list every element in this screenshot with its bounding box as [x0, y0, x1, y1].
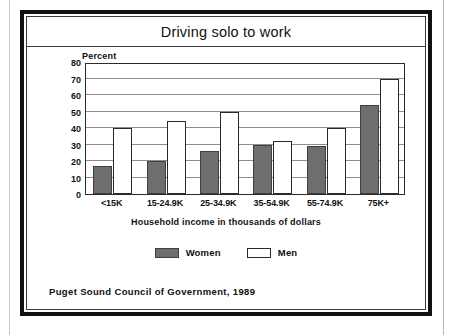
x-axis-tick-label: <15K	[101, 198, 122, 208]
x-axis-tick-label: 25-34.9K	[200, 198, 236, 208]
bar-men-4	[327, 128, 346, 194]
filled-gray-swatch	[155, 248, 179, 258]
legend-item-men: Men	[247, 247, 298, 258]
y-axis-tick-label: 70	[71, 75, 81, 84]
y-axis-tick-label: 30	[71, 141, 81, 150]
legend-label: Men	[278, 247, 298, 258]
bar-men-5	[380, 79, 399, 195]
x-axis-tick-labels: <15K15-24.9K25-34.9K35-54.9K55-74.9K75K+	[85, 198, 405, 214]
bar-men-3	[273, 141, 292, 194]
y-axis-tick-label: 50	[71, 108, 81, 117]
source-note: Puget Sound Council of Government, 1989	[49, 286, 255, 297]
plot-region: Percent 01020304050607080 <15K15-24.9K25…	[27, 47, 425, 293]
x-axis-tick-label: 75K+	[368, 198, 389, 208]
scanned-page: Driving solo to work Percent 01020304050…	[0, 0, 459, 335]
y-axis-tick-labels: 01020304050607080	[55, 63, 81, 195]
outlined-white-swatch	[247, 248, 271, 258]
chart-legend: WomenMen	[27, 247, 425, 258]
bar-men-0	[113, 128, 132, 194]
page-edge-left-rule	[9, 0, 10, 335]
x-axis-tick-label: 55-74.9K	[307, 198, 343, 208]
x-axis-tick-label: 15-24.9K	[147, 198, 183, 208]
bar-women-1	[147, 161, 166, 194]
y-axis-tick-label: 60	[71, 92, 81, 101]
y-axis-tick-label: 40	[71, 125, 81, 134]
x-axis-tick-label: 35-54.9K	[254, 198, 290, 208]
bar-men-1	[167, 121, 186, 194]
gridline	[86, 144, 404, 145]
y-axis-tick-label: 10	[71, 174, 81, 183]
figure-frame: Driving solo to work Percent 01020304050…	[20, 10, 432, 316]
y-axis-tick-label: 0	[76, 191, 81, 200]
bar-women-3	[253, 145, 272, 195]
y-axis-tick-label: 20	[71, 158, 81, 167]
plot-area	[85, 63, 405, 195]
gridline	[86, 78, 404, 79]
gridline	[86, 160, 404, 161]
gridline	[86, 111, 404, 112]
bar-women-2	[200, 151, 219, 194]
legend-item-women: Women	[155, 247, 221, 258]
figure-inner-frame: Driving solo to work Percent 01020304050…	[26, 16, 426, 310]
gridline	[86, 127, 404, 128]
bar-men-2	[220, 112, 239, 195]
y-axis-unit-label: Percent	[82, 51, 116, 61]
bar-women-4	[307, 146, 326, 194]
chart-title-band: Driving solo to work	[27, 17, 425, 47]
gridline	[86, 177, 404, 178]
gridline	[86, 94, 404, 95]
x-axis-title: Household income in thousands of dollars	[27, 217, 425, 227]
page-title: Driving solo to work	[161, 24, 292, 40]
page-edge-right-rule	[443, 0, 444, 335]
legend-label: Women	[186, 247, 221, 258]
y-axis-tick-label: 80	[71, 59, 81, 68]
bar-women-5	[360, 105, 379, 194]
bar-women-0	[93, 166, 112, 194]
